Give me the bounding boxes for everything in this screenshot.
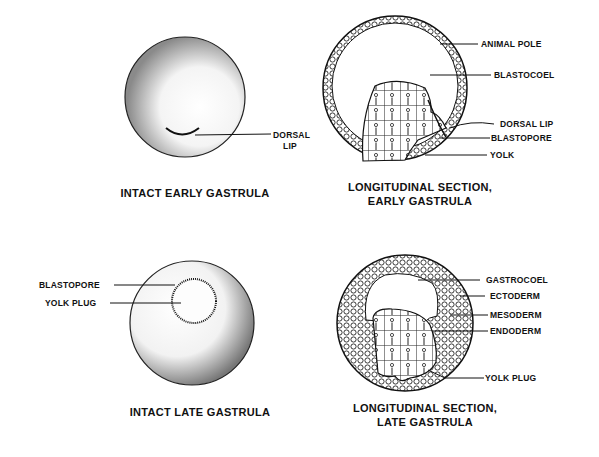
label-gastrocoel: GASTROCOEL xyxy=(486,275,548,285)
caption-line: INTACT LATE GASTRULA xyxy=(105,405,295,419)
label-endoderm: ENDODERM xyxy=(490,326,541,336)
caption-line: INTACT EARLY GASTRULA xyxy=(100,186,290,200)
label-yolk-plug: YOLK PLUG xyxy=(485,373,536,383)
caption-line: LATE GASTRULA xyxy=(325,415,525,429)
caption-intact-early: INTACT EARLY GASTRULA xyxy=(100,186,290,200)
caption-line: LONGITUDINAL SECTION, xyxy=(325,401,525,415)
caption-section-late: LONGITUDINAL SECTION, LATE GASTRULA xyxy=(325,401,525,429)
label-blastopore-late: BLASTOPORE xyxy=(39,280,100,290)
label-dorsal-lip: DORSAL LIP xyxy=(500,119,553,129)
intact-late-gastrula-figure xyxy=(110,261,254,385)
diagram-canvas xyxy=(0,0,599,457)
label-blastocoel: BLASTOCOEL xyxy=(494,70,554,80)
caption-section-early: LONGITUDINAL SECTION, EARLY GASTRULA xyxy=(320,180,520,208)
label-ectoderm: ECTODERM xyxy=(490,291,540,301)
label-yolk-plug-late: YOLK PLUG xyxy=(45,298,96,308)
caption-line: EARLY GASTRULA xyxy=(320,194,520,208)
intact-early-gastrula-figure xyxy=(125,37,271,157)
caption-intact-late: INTACT LATE GASTRULA xyxy=(105,405,295,419)
label-blastopore: BLASTOPORE xyxy=(491,133,552,143)
label-dorsal: DORSAL xyxy=(273,130,310,140)
early-section-figure xyxy=(323,16,494,161)
label-yolk: YOLK xyxy=(490,150,514,160)
caption-line: LONGITUDINAL SECTION, xyxy=(320,180,520,194)
late-section-figure xyxy=(337,255,488,391)
label-lip: LIP xyxy=(283,141,297,151)
label-animal-pole: ANIMAL POLE xyxy=(481,39,542,49)
label-mesoderm: MESODERM xyxy=(490,310,542,320)
